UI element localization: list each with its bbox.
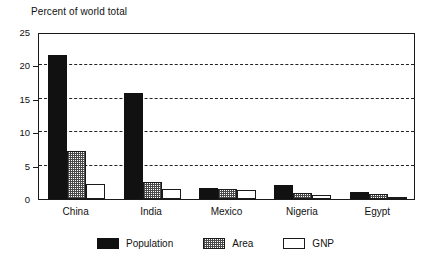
bar-india-area	[143, 182, 162, 199]
legend-item-population[interactable]: Population	[97, 238, 173, 249]
bar-china-area	[67, 151, 86, 199]
y-axis-label-10: 10	[19, 128, 30, 138]
bar-group-china	[48, 34, 105, 199]
y-tick-mark	[33, 100, 38, 101]
legend-swatch-gnp	[283, 238, 305, 249]
legend-label-population: Population	[126, 238, 173, 249]
bar-nigeria-gnp	[312, 195, 331, 199]
y-axis-label-0: 0	[25, 195, 30, 205]
bar-group-india	[124, 34, 181, 199]
bar-egypt-area	[369, 194, 388, 199]
bar-india-population	[124, 93, 143, 199]
legend-item-area[interactable]: Area	[203, 238, 253, 249]
x-axis-label-india: India	[140, 206, 162, 218]
legend-label-area: Area	[232, 238, 253, 249]
y-axis-label-5: 5	[25, 162, 30, 172]
x-axis-label-egypt: Egypt	[365, 206, 391, 218]
chart-legend: PopulationAreaGNP	[0, 238, 431, 249]
bar-india-gnp	[162, 189, 181, 199]
y-tick-mark	[33, 167, 38, 168]
legend-swatch-population	[97, 238, 119, 249]
legend-label-gnp: GNP	[312, 238, 334, 249]
bar-mexico-gnp	[237, 190, 256, 199]
bar-group-egypt	[350, 34, 407, 199]
y-tick-mark	[33, 133, 38, 134]
chart-root: Percent of world total 0510152025 ChinaI…	[0, 0, 431, 268]
bar-mexico-population	[199, 188, 218, 199]
x-axis-label-china: China	[63, 206, 89, 218]
legend-swatch-area	[203, 238, 225, 249]
bar-egypt-population	[350, 192, 369, 199]
x-axis-label-mexico: Mexico	[211, 206, 243, 218]
legend-item-gnp[interactable]: GNP	[283, 238, 334, 249]
chart-title: Percent of world total	[31, 6, 127, 18]
bar-nigeria-population	[274, 185, 293, 199]
x-axis-label-nigeria: Nigeria	[286, 206, 318, 218]
bar-group-nigeria	[274, 34, 331, 199]
bar-china-population	[48, 55, 67, 199]
y-tick-mark	[33, 66, 38, 67]
bar-mexico-area	[218, 189, 237, 199]
plot-area	[38, 33, 415, 200]
y-axis-label-15: 15	[19, 95, 30, 105]
bar-china-gnp	[86, 184, 105, 199]
y-axis-label-25: 25	[19, 28, 30, 38]
y-axis-label-20: 20	[19, 62, 30, 72]
bar-egypt-gnp	[388, 197, 407, 199]
bar-group-mexico	[199, 34, 256, 199]
bar-nigeria-area	[293, 193, 312, 199]
